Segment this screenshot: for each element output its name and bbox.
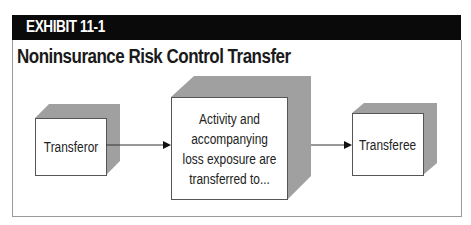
arrow-activity-to-transferee bbox=[311, 140, 353, 150]
activity-box: Activity and accompanying loss exposure … bbox=[171, 76, 312, 200]
transferee-box: Transferee bbox=[352, 103, 438, 176]
transferor-label: Transferor bbox=[44, 137, 98, 157]
activity-label: Activity and accompanying loss exposure … bbox=[180, 109, 279, 189]
exhibit-label: EXHIBIT 11-1 bbox=[26, 18, 105, 36]
arrow-transferor-to-activity bbox=[106, 140, 172, 150]
transferee-label: Transferee bbox=[359, 135, 416, 155]
diagram-title: Noninsurance Risk Control Transfer bbox=[17, 45, 291, 68]
exhibit-header: EXHIBIT 11-1 bbox=[12, 15, 461, 40]
